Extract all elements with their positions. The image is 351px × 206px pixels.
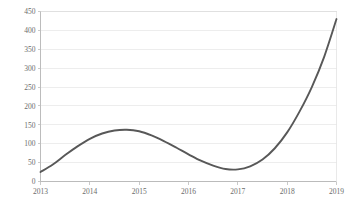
x-tick-label-2017: 2017 [230, 187, 245, 196]
x-tick-label-2014: 2014 [82, 187, 97, 196]
y-tick-label-150: 150 [24, 121, 36, 130]
y-tick-label-300: 300 [24, 64, 36, 73]
x-tick-label-2015: 2015 [132, 187, 147, 196]
chart-canvas: 050100150200250300350400450 201320142015… [0, 0, 351, 206]
chart-background [0, 0, 351, 206]
line-chart: 050100150200250300350400450 201320142015… [0, 0, 351, 206]
x-tick-label-2013: 2013 [33, 187, 48, 196]
y-tick-label-100: 100 [24, 139, 36, 148]
y-tick-label-250: 250 [24, 83, 36, 92]
y-tick-label-50: 50 [28, 158, 36, 167]
x-tick-label-2018: 2018 [280, 187, 295, 196]
y-tick-label-400: 400 [24, 26, 36, 35]
y-tick-label-350: 350 [24, 45, 36, 54]
y-tick-label-0: 0 [32, 177, 36, 186]
x-tick-label-2016: 2016 [181, 187, 196, 196]
x-tick-label-2019: 2019 [329, 187, 344, 196]
y-tick-label-450: 450 [24, 7, 36, 16]
y-tick-label-200: 200 [24, 102, 36, 111]
